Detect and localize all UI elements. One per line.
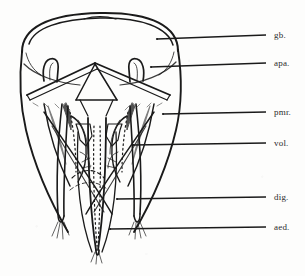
leader-tip-gb bbox=[156, 38, 158, 40]
figure-container: gb.apa.pmr.vol.dig.aed. bbox=[0, 0, 305, 276]
label-apa: apa. bbox=[274, 59, 290, 68]
gonobase-dome bbox=[22, 13, 178, 85]
label-aed: aed. bbox=[274, 223, 290, 232]
genitalia-line-drawing bbox=[0, 0, 305, 276]
label-pmr: pmr. bbox=[274, 108, 291, 117]
leader-line-aed bbox=[110, 227, 266, 229]
leader-line-apa bbox=[151, 63, 266, 67]
leader-line-vol bbox=[133, 143, 266, 145]
leader-line-dig bbox=[117, 197, 266, 199]
leader-tip-apa bbox=[150, 66, 152, 68]
label-dig: dig. bbox=[274, 193, 289, 202]
leader-tip-dig bbox=[116, 198, 118, 200]
leader-lines bbox=[109, 35, 266, 230]
leader-tip-pmr bbox=[162, 113, 164, 115]
label-vol: vol. bbox=[274, 139, 289, 148]
leader-tip-vol bbox=[132, 144, 134, 146]
leader-tip-aed bbox=[109, 228, 111, 230]
label-gb: gb. bbox=[274, 31, 286, 40]
volsellae bbox=[63, 103, 135, 182]
aedeagus bbox=[78, 118, 117, 255]
